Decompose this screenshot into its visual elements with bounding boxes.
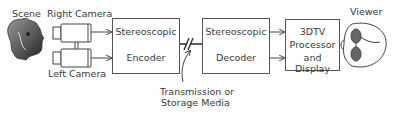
viewer-label: Viewer [350, 6, 382, 17]
right-camera-icon [53, 24, 91, 42]
scene-icon [8, 18, 44, 60]
viewer-icon [341, 23, 386, 67]
decoder-title: Stereoscopic [203, 26, 269, 37]
encoder-title: Stereoscopic [113, 26, 179, 37]
display-line3: and Display [286, 52, 339, 74]
display-box: 3DTV Processor and Display [285, 19, 340, 71]
scene-label: Scene [12, 8, 41, 19]
encoder-subtitle: Encoder [113, 52, 179, 63]
display-line1: 3DTV [286, 26, 339, 37]
encoder-box: Stereoscopic Encoder [112, 18, 180, 74]
right-camera-label: Right Camera [47, 8, 112, 19]
left-camera-label: Left Camera [48, 68, 106, 79]
left-camera-icon [53, 49, 91, 67]
transmission-label-line2: Storage Media [161, 97, 230, 108]
transmission-label-line1: Transmission or [160, 86, 234, 97]
display-line2: Processor [286, 39, 339, 50]
decoder-box: Stereoscopic Decoder [202, 18, 270, 74]
decoder-subtitle: Decoder [203, 52, 269, 63]
